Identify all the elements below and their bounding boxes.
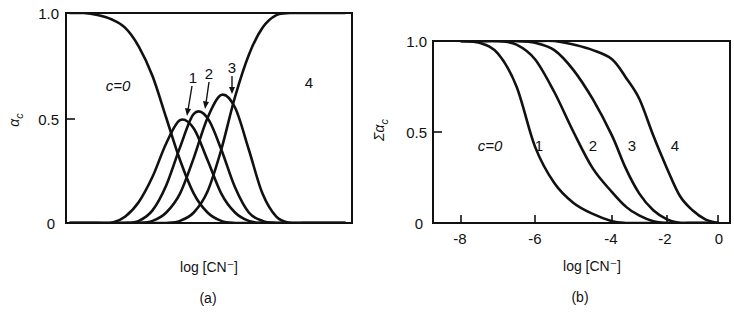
curve-2: [70, 111, 345, 223]
ytick-label-b-0.5: 0.5: [406, 124, 427, 141]
panel-b: -8 -6 -4 -2 0 0 0.5 1.0 Σαc log [CN⁻] (b…: [371, 33, 730, 305]
xtick-label-b--8: -8: [453, 230, 466, 247]
curve-label-b-4: 4: [671, 137, 679, 154]
ytick-label-b-0: 0: [415, 215, 423, 232]
curve-label-a-c0: c=0: [106, 77, 131, 94]
curve-label-a-3: 3: [228, 59, 236, 76]
panel-a: 0 0.5 1.0 αc log [CN⁻] (a) c=0 1 2 3 4: [6, 5, 352, 306]
ylabel-b: Σαc: [371, 119, 390, 142]
curve-1: [70, 119, 345, 223]
xtick-label-b--2: -2: [658, 230, 671, 247]
figure: 0 0.5 1.0 αc log [CN⁻] (a) c=0 1 2 3 4: [0, 0, 734, 314]
curve-label-b-2: 2: [589, 137, 597, 154]
xtick-label-b--4: -4: [604, 230, 617, 247]
curve-label-b-c0: c=0: [478, 137, 503, 154]
curve-label-a-2: 2: [205, 65, 213, 82]
curve-4: [461, 41, 718, 223]
curve-label-b-1: 1: [535, 137, 543, 154]
curves-b: [461, 41, 718, 224]
arrowhead-1: [185, 108, 191, 116]
ytick-label-a-0.5: 0.5: [38, 111, 59, 128]
curve-label-a-4: 4: [305, 74, 313, 91]
curve-label-b-3: 3: [628, 137, 636, 154]
curve-label-a-1: 1: [189, 69, 197, 86]
ytick-label-b-1.0: 1.0: [406, 33, 427, 50]
arrow-2: [206, 82, 209, 103]
xtick-label-b-0: 0: [715, 230, 723, 247]
curves-a: [70, 13, 345, 224]
arrowhead-3: [229, 87, 235, 94]
arrow-1: [188, 86, 192, 110]
plot-frame-b: [433, 41, 730, 223]
ylabel-a: αc: [6, 113, 25, 127]
xlabel-a: log [CN⁻]: [180, 259, 238, 275]
arrowhead-2: [203, 101, 209, 109]
caption-b: (b): [571, 289, 588, 305]
ytick-label-a-1.0: 1.0: [38, 5, 59, 22]
caption-a: (a): [199, 290, 216, 306]
ytick-label-a-0: 0: [47, 215, 55, 232]
xlabel-b: log [CN⁻]: [563, 258, 621, 274]
xtick-label-b--6: -6: [528, 230, 541, 247]
